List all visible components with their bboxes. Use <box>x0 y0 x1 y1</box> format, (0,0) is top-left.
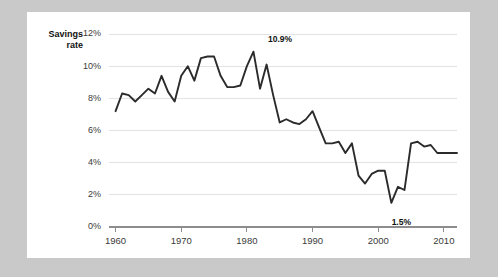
x-tick-label-1970: 1970 <box>171 235 192 246</box>
x-tick-label-2010: 2010 <box>433 235 454 246</box>
savings-rate-line-chart: 0%2%4%6%8%10%12% 19601970198019902000201… <box>27 12 470 258</box>
chart-panel: 0%2%4%6%8%10%12% 19601970198019902000201… <box>27 12 470 258</box>
x-axis-tick-labels: 196019701980199020002010 <box>105 235 454 246</box>
y-tick-label-12%: 12% <box>83 28 101 38</box>
x-tick-label-1990: 1990 <box>302 235 323 246</box>
y-tick-label-10%: 10% <box>83 61 101 71</box>
y-tick-label-4%: 4% <box>88 157 101 167</box>
y-tick-label-6%: 6% <box>88 125 101 135</box>
x-tick-label-2000: 2000 <box>368 235 389 246</box>
x-tick-label-1980: 1980 <box>236 235 257 246</box>
x-tick-label-1960: 1960 <box>105 235 126 246</box>
y-axis-title-line-1: Savings <box>48 29 83 39</box>
savings-rate-series <box>116 52 457 203</box>
annotation-trough-2002: 1.5% <box>392 217 412 227</box>
gridlines <box>109 34 457 195</box>
y-tick-label-2%: 2% <box>88 189 101 199</box>
y-axis-tick-labels: 0%2%4%6%8%10%12% <box>83 28 101 231</box>
y-tick-label-8%: 8% <box>88 93 101 103</box>
y-axis-title-line-2: rate <box>66 40 83 50</box>
y-tick-label-0%: 0% <box>88 221 101 231</box>
annotation-peak-1982: 10.9% <box>268 34 293 44</box>
